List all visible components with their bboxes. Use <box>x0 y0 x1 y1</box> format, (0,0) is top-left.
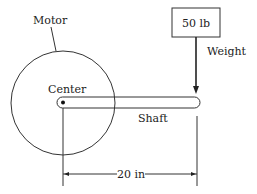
motor-shaft-diagram: Motor Center Shaft 50 lb Weight 20 in <box>0 0 257 194</box>
weight-arrow-head <box>193 86 199 94</box>
center-label: Center <box>48 83 87 96</box>
motor-leader-line <box>51 27 56 51</box>
weight-label: Weight <box>207 45 247 58</box>
weight-value: 50 lb <box>182 17 210 30</box>
dimension-arrow-left <box>64 172 69 176</box>
dimension-arrow-right <box>191 172 196 176</box>
center-dot <box>61 101 65 105</box>
shaft-label: Shaft <box>138 112 168 125</box>
motor-label: Motor <box>33 14 68 27</box>
dimension-label: 20 in <box>117 168 145 181</box>
shaft <box>57 97 200 108</box>
